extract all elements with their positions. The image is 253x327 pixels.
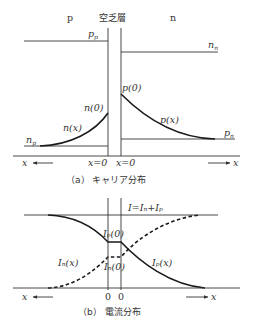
total-current-label: I=Iₙ+Iₚ (127, 202, 163, 213)
origin-left-label-a: x=0 (88, 157, 107, 168)
ip-curve (48, 215, 205, 288)
n0-label: n(0) (84, 102, 104, 113)
x-right-label-b: x (211, 291, 217, 302)
ipx-label: Iₚ(x) (151, 257, 173, 268)
current-distribution-diagram: I=Iₙ+Iₚ Iₚ(0) Iₙ(0) Iₙ(x) Iₚ(x) x 0 0 x … (13, 198, 240, 317)
caption-b: （b） 電流分布 (78, 306, 141, 317)
ip0-label: Iₚ(0) (102, 228, 124, 239)
origin-left-label-b: 0 (105, 291, 111, 302)
nx-label: n(x) (63, 122, 82, 133)
origin-right-label-b: 0 (118, 291, 124, 302)
pp-label: pp (88, 28, 98, 41)
in-curve (48, 215, 200, 288)
p0-label: p(0) (122, 82, 142, 93)
x-left-label-b: x (22, 291, 28, 302)
p-region-label: p (67, 12, 73, 23)
x-right-label-a: x (233, 157, 239, 168)
x-left-label-a: x (22, 157, 28, 168)
origin-right-label-a: x=0 (116, 157, 135, 168)
carrier-distribution-diagram: p 空乏層 n pp nn np pn n(0) n(x) p(0) p(x) … (13, 12, 240, 185)
caption-a: （a） キャリア分布 (66, 174, 146, 185)
n-region-label: n (170, 12, 176, 23)
np-label: np (26, 134, 36, 147)
pn-label: pn (224, 127, 234, 139)
px-label: p(x) (160, 114, 179, 125)
in0-label: Iₙ(0) (103, 261, 125, 272)
nn-label: nn (208, 39, 218, 51)
depletion-layer-label: 空乏層 (99, 12, 126, 23)
pn-junction-figure: p 空乏層 n pp nn np pn n(0) n(x) p(0) p(x) … (0, 0, 253, 327)
inx-label: Iₙ(x) (57, 257, 79, 268)
